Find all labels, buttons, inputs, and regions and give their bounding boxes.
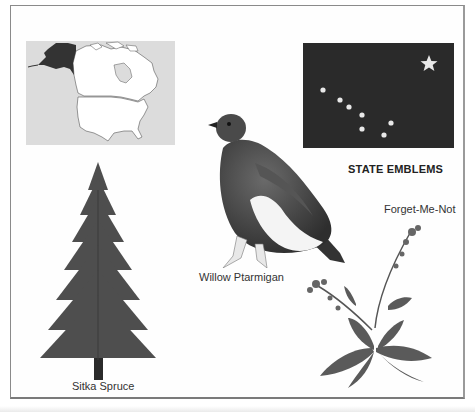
page-bottom-edge	[0, 406, 475, 412]
flower-label: Forget-Me-Not	[384, 203, 456, 215]
bird-label: Willow Ptarmigan	[199, 271, 284, 283]
location-map	[26, 41, 175, 145]
north-america-map-icon	[26, 41, 175, 145]
tree-icon	[36, 160, 161, 382]
flower-icon	[300, 218, 440, 393]
tree-label: Sitka Spruce	[72, 380, 134, 392]
forget-me-not-illustration	[300, 218, 440, 397]
state-emblems-heading: STATE EMBLEMS	[348, 163, 443, 175]
sitka-spruce-illustration	[36, 160, 161, 386]
